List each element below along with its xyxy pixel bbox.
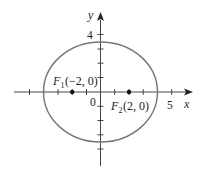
y-tick-label-4: 4 xyxy=(87,29,93,41)
ellipse-diagram: y 4 x 5 0 F 1 (−2, 0) F 2 (2, 0) xyxy=(0,0,201,173)
x-axis xyxy=(14,89,186,95)
origin-label: 0 xyxy=(90,96,96,108)
focus-point-f2 xyxy=(127,90,131,94)
x-axis-label: x xyxy=(183,97,190,111)
svg-text:(−2, 0): (−2, 0) xyxy=(65,74,98,88)
focus-point-f1 xyxy=(70,90,74,94)
svg-text:1: 1 xyxy=(61,81,65,90)
focus-label-f2: F 2 (2, 0) xyxy=(110,99,149,115)
svg-text:(2, 0): (2, 0) xyxy=(123,99,149,113)
x-tick-label-5: 5 xyxy=(167,99,173,111)
focus-label-f1: F 1 (−2, 0) xyxy=(52,74,98,90)
y-axis-arrow-icon xyxy=(97,12,104,21)
y-axis-label: y xyxy=(87,8,94,22)
svg-text:2: 2 xyxy=(119,106,123,115)
